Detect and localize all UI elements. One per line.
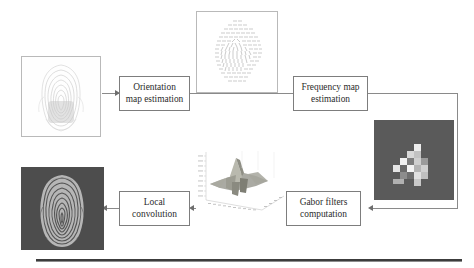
input-fingerprint-graphic: [22, 57, 100, 136]
connector-frequency-right: [367, 93, 458, 94]
diagram-canvas: Orientation map estimation Frequency map…: [0, 0, 474, 268]
gabor-label-line1: Gabor filters: [300, 197, 348, 208]
image-gabor-surface-plot: [196, 148, 288, 218]
connector-orientation-to-frequency: [189, 93, 303, 94]
convolution-label-line1: Local: [132, 197, 177, 208]
process-box-orientation-map-estimation[interactable]: Orientation map estimation: [119, 76, 190, 111]
connector-into-gabor: [370, 208, 458, 209]
bottom-divider-rule: [36, 259, 462, 261]
orientation-label-line1: Orientation: [126, 82, 184, 93]
image-output-fingerprint: [21, 167, 104, 250]
frequency-map-graphic: [374, 120, 454, 200]
output-fingerprint-graphic: [21, 167, 104, 250]
convolution-label-line2: convolution: [132, 209, 177, 220]
gabor-surface-graphic: [196, 148, 288, 218]
gabor-label-line2: computation: [300, 209, 348, 220]
arrowhead-into-gabor: [368, 205, 373, 211]
image-frequency-map: [374, 120, 454, 200]
process-box-gabor-filters-computation[interactable]: Gabor filters computation: [286, 191, 361, 226]
orientation-label-line2: map estimation: [126, 94, 184, 105]
frequency-label-line1: Frequency map: [301, 82, 359, 93]
image-orientation-map: [196, 11, 278, 93]
process-box-local-convolution[interactable]: Local convolution: [119, 191, 190, 226]
process-box-frequency-map-estimation[interactable]: Frequency map estimation: [293, 76, 368, 111]
image-input-fingerprint: [21, 56, 101, 137]
connector-right-vertical: [457, 93, 458, 208]
orientation-map-graphic: [197, 12, 277, 92]
frequency-label-line2: estimation: [301, 94, 359, 105]
